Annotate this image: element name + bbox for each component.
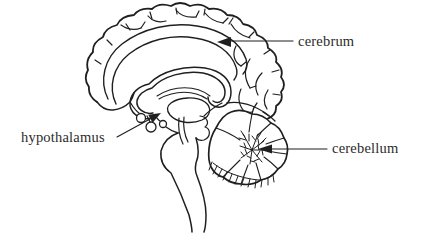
- cerebrum-pointer: [217, 37, 293, 47]
- brain-diagram-figure: cerebrum hypothalamus cerebellum: [0, 0, 422, 235]
- thalamus: [167, 98, 209, 123]
- label-cerebrum: cerebrum: [298, 33, 354, 50]
- label-cerebellum: cerebellum: [332, 140, 398, 157]
- brainstem: [161, 133, 206, 232]
- cerebellum-pointer: [258, 145, 327, 154]
- cerebrum-arrowhead-icon: [217, 37, 231, 47]
- label-hypothalamus: hypothalamus: [21, 129, 105, 146]
- brain-diagram: [0, 0, 422, 235]
- corpus-callosum: [130, 67, 231, 118]
